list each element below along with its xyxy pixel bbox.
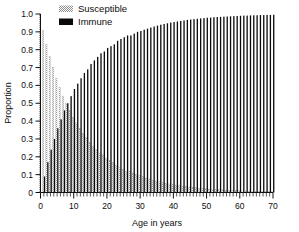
bar-immune-age-13: [84, 73, 85, 193]
bar-group-age-9: [69, 96, 72, 192]
bar-immune-age-53: [217, 17, 218, 192]
bar-susceptible-age-51: [209, 189, 210, 193]
bar-immune-age-50: [207, 18, 208, 193]
bar-immune-age-65: [256, 15, 257, 192]
bar-immune-age-70: [273, 15, 274, 193]
bar-immune-age-67: [263, 15, 264, 192]
bar-susceptible-age-10: [72, 118, 73, 193]
legend-swatch-immune: [59, 19, 73, 26]
bar-immune-age-46: [193, 19, 194, 192]
bar-susceptible-age-21: [109, 160, 110, 192]
bar-susceptible-age-24: [119, 168, 120, 193]
bar-immune-age-52: [213, 17, 214, 192]
bar-immune-age-54: [220, 17, 221, 193]
bar-immune-age-26: [127, 35, 128, 192]
bar-immune-age-49: [203, 18, 204, 192]
bar-immune-age-59: [237, 16, 238, 193]
bar-immune-age-7: [64, 110, 65, 192]
x-ticklabel-10: 10: [69, 201, 79, 211]
bar-immune-age-47: [197, 19, 198, 193]
bar-susceptible-age-22: [112, 162, 113, 192]
bar-immune-age-36: [160, 25, 161, 193]
bar-immune-age-18: [100, 53, 101, 192]
legend-label-susceptible: Susceptible: [78, 3, 127, 14]
bar-immune-age-14: [87, 69, 88, 192]
bar-immune-age-5: [57, 128, 58, 192]
y-ticklabel-0.6: 0.6: [21, 80, 33, 90]
bar-susceptible-age-26: [125, 171, 126, 192]
bar-susceptible-age-33: [149, 179, 150, 193]
bar-immune-age-68: [266, 15, 267, 193]
bar-immune-age-8: [67, 103, 68, 192]
bar-susceptible-age-4: [52, 68, 53, 193]
bar-susceptible-age-28: [132, 173, 133, 193]
bar-susceptible-age-27: [129, 171, 130, 192]
bar-susceptible-age-44: [185, 187, 186, 193]
bar-immune-age-61: [243, 16, 244, 193]
y-ticklabel-0.4: 0.4: [21, 116, 33, 126]
bar-susceptible-age-32: [145, 178, 146, 193]
bar-susceptible-age-35: [155, 181, 156, 193]
bar-susceptible-age-13: [82, 134, 83, 193]
y-ticklabel-0.7: 0.7: [21, 63, 33, 73]
bar-susceptible-age-29: [135, 175, 136, 193]
bar-immune-age-9: [70, 96, 71, 192]
bar-immune-age-40: [173, 22, 174, 192]
bar-immune-age-55: [223, 17, 224, 193]
bar-susceptible-age-20: [106, 159, 107, 193]
bar-susceptible-age-25: [122, 169, 123, 192]
bar-susceptible-age-9: [69, 110, 70, 192]
y-axis-title: Proportion: [3, 82, 13, 124]
bar-immune-age-41: [177, 22, 178, 193]
bar-immune-age-21: [110, 46, 111, 192]
x-axis-title: Age in years: [132, 218, 183, 228]
x-ticklabel-40: 40: [169, 201, 179, 211]
y-ticklabel-1.0: 1.0: [21, 9, 33, 19]
bar-immune-age-37: [163, 24, 164, 193]
bar-immune-age-63: [250, 15, 251, 192]
bar-immune-age-1: [44, 176, 45, 192]
bar-susceptible-age-30: [139, 176, 140, 193]
bar-susceptible-age-37: [162, 183, 163, 193]
bar-immune-age-62: [246, 16, 247, 193]
bar-immune-age-17: [97, 57, 98, 193]
bar-susceptible-age-8: [66, 103, 67, 192]
chart-figure: 00.10.20.30.40.50.60.70.80.91.0 01020304…: [0, 0, 299, 232]
y-ticklabel-0.9: 0.9: [21, 27, 33, 37]
bar-immune-age-29: [137, 32, 138, 193]
bar-immune-age-23: [117, 41, 118, 193]
y-ticklabel-0.3: 0.3: [21, 134, 33, 144]
bar-susceptible-age-19: [102, 155, 103, 192]
bar-immune-age-28: [134, 34, 135, 193]
bar-immune-age-42: [180, 21, 181, 193]
bar-susceptible-age-45: [189, 187, 190, 193]
bar-immune-age-34: [153, 27, 154, 193]
bar-susceptible-age-5: [56, 78, 57, 192]
bar-susceptible-age-23: [116, 166, 117, 193]
bar-immune-age-48: [200, 18, 201, 192]
y-ticklabel-0: 0: [28, 188, 33, 198]
bar-immune-age-27: [130, 35, 131, 192]
x-ticklabel-30: 30: [135, 201, 145, 211]
bar-susceptible-age-7: [62, 96, 63, 192]
bar-susceptible-age-41: [175, 185, 176, 193]
bar-susceptible-age-49: [202, 188, 203, 192]
bar-immune-age-43: [183, 20, 184, 192]
bar-immune-age-30: [140, 31, 141, 193]
bar-susceptible-age-48: [199, 188, 200, 192]
bar-immune-age-15: [90, 64, 91, 193]
x-ticklabel-0: 0: [38, 201, 43, 211]
bar-susceptible-age-3: [49, 57, 50, 193]
y-ticklabel-0.2: 0.2: [21, 152, 33, 162]
x-ticklabel-20: 20: [102, 201, 112, 211]
bar-immune-age-24: [120, 39, 121, 193]
bar-group-age-8: [66, 103, 69, 192]
bar-immune-age-20: [107, 48, 108, 193]
bar-immune-age-3: [51, 150, 52, 193]
bar-immune-age-66: [260, 15, 261, 192]
bar-immune-age-10: [74, 89, 75, 193]
bar-susceptible-age-18: [99, 153, 100, 192]
bar-immune-age-39: [170, 23, 171, 193]
bar-susceptible-age-1: [42, 30, 43, 192]
bar-susceptible-age-12: [79, 128, 80, 192]
